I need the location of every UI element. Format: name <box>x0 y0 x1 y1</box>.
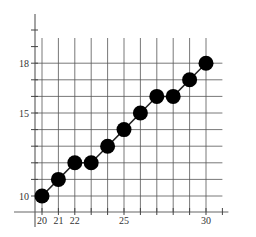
y-tick-label: 18 <box>19 58 29 69</box>
y-tick-label: 10 <box>19 191 29 202</box>
data-point <box>67 155 82 170</box>
data-point <box>117 122 132 137</box>
data-point <box>35 189 50 204</box>
x-tick-label: 22 <box>70 215 80 226</box>
tick-labels: 2021222530101518 <box>19 58 211 226</box>
x-tick-label: 25 <box>119 215 129 226</box>
data-point <box>182 72 197 87</box>
data-point <box>199 56 214 71</box>
x-tick-label: 21 <box>53 215 63 226</box>
axis-ticks <box>31 30 222 215</box>
x-tick-label: 20 <box>37 215 47 226</box>
x-tick-label: 30 <box>201 215 211 226</box>
data-point <box>166 89 181 104</box>
data-point <box>100 139 115 154</box>
data-point <box>133 106 148 121</box>
data-point <box>149 89 164 104</box>
data-point <box>84 155 99 170</box>
y-tick-label: 15 <box>19 108 29 119</box>
scatter-chart: 2021222530101518 <box>0 0 256 237</box>
data-point <box>51 172 66 187</box>
